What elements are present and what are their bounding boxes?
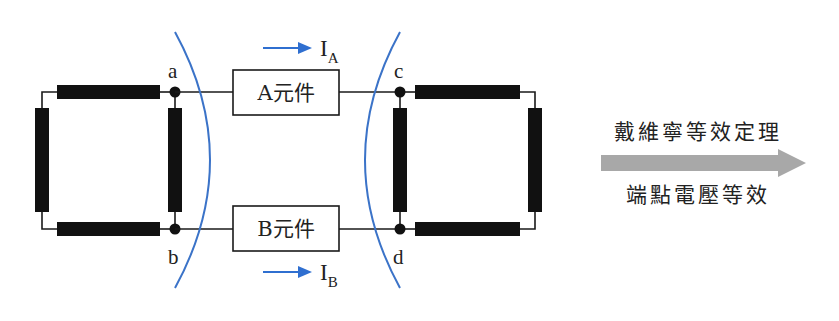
component-b: B元件 <box>233 206 339 251</box>
component-a: A元件 <box>233 70 339 115</box>
resistor-left-bottom <box>57 222 160 236</box>
resistor-left-outer <box>35 108 49 212</box>
theorem-panel: 戴維寧等效定理 端點電壓等效 <box>601 120 806 207</box>
left-network <box>35 85 182 236</box>
node-a-label: a <box>168 59 178 83</box>
node-c-label: c <box>394 59 403 83</box>
node-d-label: d <box>393 245 404 269</box>
theorem-title: 戴維寧等效定理 <box>614 120 782 144</box>
big-arrow-icon <box>601 149 806 177</box>
resistor-left-top <box>57 85 160 99</box>
current-arrow-ia: IA <box>263 36 339 66</box>
resistor-right-outer <box>528 108 542 212</box>
current-arrow-ib: IB <box>263 260 338 290</box>
node-c-dot <box>395 87 406 98</box>
resistor-right-top <box>415 85 520 99</box>
node-b-label: b <box>168 245 179 269</box>
current-ia-label: IA <box>320 36 339 66</box>
component-a-label: A元件 <box>256 81 314 105</box>
resistor-right-bottom <box>415 222 520 236</box>
circuit-diagram: a b c d A元件 B元件 IA IB <box>0 0 839 321</box>
node-d-dot <box>395 224 406 235</box>
current-ib-label: IB <box>320 260 338 290</box>
component-b-label: B元件 <box>257 217 314 241</box>
resistor-left-inner <box>168 108 182 212</box>
right-network <box>393 85 542 236</box>
theorem-subtitle: 端點電壓等效 <box>626 183 770 207</box>
resistor-right-inner <box>393 108 407 212</box>
